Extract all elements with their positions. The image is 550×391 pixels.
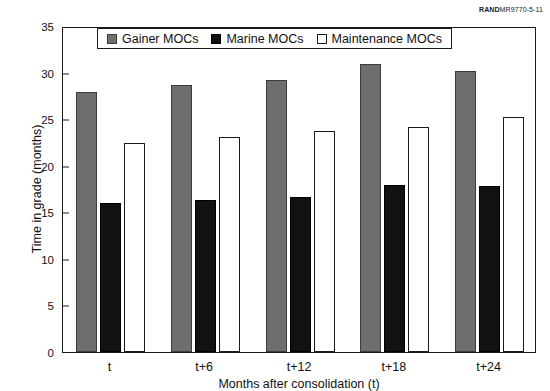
- bar-gainer-tplus24: [455, 71, 476, 352]
- x-tick-label: t+18: [381, 360, 406, 374]
- y-tick-label: 25: [41, 114, 54, 126]
- bar-marine-tplus6: [195, 200, 216, 352]
- y-tick-label: 15: [41, 207, 54, 219]
- bar-maint-tplus18: [408, 127, 429, 352]
- legend-swatch-maint-icon: [317, 34, 327, 44]
- bar-gainer-tplus12: [266, 80, 287, 352]
- y-tick-mark: [62, 259, 69, 260]
- legend-label: Gainer MOCs: [122, 32, 198, 46]
- y-tick-mark: [62, 213, 69, 214]
- x-tick-label: t: [108, 360, 111, 374]
- source-credit: RANDMR9770-5-11: [479, 6, 543, 13]
- bar-marine-tplus12: [290, 197, 311, 352]
- y-tick-label: 20: [41, 161, 54, 173]
- y-tick-mark: [62, 120, 69, 121]
- legend: Gainer MOCsMarine MOCsMaintenance MOCs: [97, 28, 452, 49]
- x-axis-label: Months after consolidation (t): [62, 377, 536, 391]
- bar-marine-tplus24: [479, 186, 500, 352]
- bar-maint-tplus6: [219, 137, 240, 352]
- x-tick-label: t+6: [195, 360, 213, 374]
- legend-label: Marine MOCs: [226, 32, 303, 46]
- bar-maint-tplus12: [314, 131, 335, 352]
- legend-item-marine: Marine MOCs: [211, 32, 303, 46]
- figure: RANDMR9770-5-11 Time in grade (months) 0…: [0, 0, 550, 391]
- plot-area: [62, 27, 536, 353]
- bar-maint-tplus24: [503, 117, 524, 352]
- credit-brand: RAND: [479, 6, 500, 13]
- legend-item-gainer: Gainer MOCs: [107, 32, 198, 46]
- bar-marine-tplus18: [384, 185, 405, 352]
- bars-container: [63, 28, 535, 352]
- y-tick-label: 35: [41, 21, 54, 33]
- bar-marine-t: [100, 203, 121, 352]
- legend-item-maint: Maintenance MOCs: [317, 32, 442, 46]
- bar-maint-t: [124, 143, 145, 352]
- bar-gainer-t: [76, 92, 97, 352]
- x-tick-label: t+12: [287, 360, 312, 374]
- y-tick-mark: [62, 166, 69, 167]
- y-tick-mark: [62, 73, 69, 74]
- y-tick-label: 30: [41, 68, 54, 80]
- credit-code: MR9770-5-11: [500, 6, 543, 13]
- legend-swatch-gainer-icon: [107, 34, 117, 44]
- bar-gainer-tplus18: [360, 64, 381, 352]
- y-tick-label: 5: [48, 300, 54, 312]
- legend-swatch-marine-icon: [211, 34, 221, 44]
- y-tick-label: 10: [41, 254, 54, 266]
- bar-gainer-tplus6: [171, 85, 192, 352]
- x-tick-label: t+24: [476, 360, 501, 374]
- legend-label: Maintenance MOCs: [332, 32, 442, 46]
- y-axis: 05101520253035: [0, 27, 62, 354]
- y-tick-mark: [62, 306, 69, 307]
- y-tick-label: 0: [48, 347, 54, 359]
